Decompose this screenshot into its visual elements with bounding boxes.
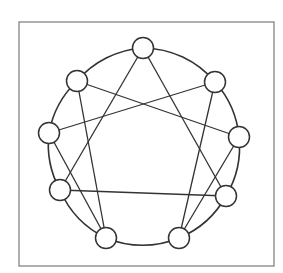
edge-6-9 bbox=[60, 48, 143, 190]
edge-3-6 bbox=[60, 190, 226, 196]
nodes bbox=[39, 38, 250, 249]
enneagram-diagram bbox=[0, 0, 283, 273]
node-lower-left bbox=[50, 180, 71, 201]
node-upper-right bbox=[205, 72, 226, 93]
node-top bbox=[133, 38, 154, 59]
node-lower-right bbox=[216, 186, 237, 207]
node-bottom-left bbox=[96, 228, 117, 249]
edge-8-5 bbox=[77, 81, 106, 238]
edge-1-4 bbox=[179, 82, 215, 238]
node-upper-left bbox=[67, 71, 88, 92]
edge-9-3 bbox=[143, 48, 226, 196]
enneagram-figure bbox=[0, 0, 283, 273]
node-bottom-right bbox=[169, 228, 190, 249]
node-right bbox=[229, 127, 250, 148]
node-left bbox=[39, 123, 60, 144]
